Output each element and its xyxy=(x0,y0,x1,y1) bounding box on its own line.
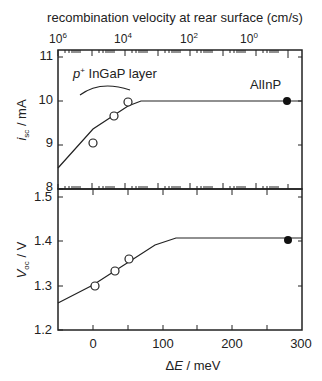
top-axis-ticks: 106 104 102 100 xyxy=(49,31,258,46)
svg-text:1.5: 1.5 xyxy=(34,189,52,204)
svg-text:11: 11 xyxy=(40,48,54,63)
svg-text:200: 200 xyxy=(221,336,243,351)
svg-text:10: 10 xyxy=(39,92,53,107)
isc-point xyxy=(89,139,97,147)
x-ticks: 0 100 200 300 xyxy=(89,336,311,351)
isc-alinp-point xyxy=(283,97,291,105)
voc-axis-title: Voc / V xyxy=(14,241,31,278)
bottom-y-ticks: 1.2 1.3 1.4 1.5 xyxy=(34,189,52,337)
isc-model-line xyxy=(58,101,302,168)
svg-text:102: 102 xyxy=(180,31,198,46)
ingap-annotation: p+ InGaP layer xyxy=(72,66,158,81)
isc-point xyxy=(124,98,132,106)
voc-point xyxy=(91,282,99,290)
alinp-annotation: AlInP xyxy=(250,77,281,92)
svg-text:300: 300 xyxy=(290,336,312,351)
chart-canvas: recombination velocity at rear surface (… xyxy=(0,0,322,381)
svg-text:1.3: 1.3 xyxy=(34,278,52,293)
voc-model-line xyxy=(58,238,302,303)
svg-text:100: 100 xyxy=(240,31,258,46)
svg-text:1.4: 1.4 xyxy=(34,233,52,248)
voc-alinp-point xyxy=(284,236,292,244)
isc-point xyxy=(110,112,118,120)
top-axis-title: recombination velocity at rear surface (… xyxy=(47,10,303,25)
x-axis-title: ΔE / meV xyxy=(166,358,221,373)
svg-text:9: 9 xyxy=(46,135,53,150)
voc-point xyxy=(125,255,133,263)
svg-text:1.2: 1.2 xyxy=(34,322,52,337)
top-y-ticks: 8 9 10 11 xyxy=(39,48,53,194)
svg-text:100: 100 xyxy=(152,336,174,351)
ingap-brace xyxy=(80,86,130,95)
bottom-panel-frame xyxy=(58,189,302,330)
svg-text:0: 0 xyxy=(89,336,96,351)
svg-text:104: 104 xyxy=(114,31,132,46)
svg-text:106: 106 xyxy=(49,31,67,46)
isc-axis-title: isc / mA xyxy=(14,99,31,141)
voc-point xyxy=(111,267,119,275)
